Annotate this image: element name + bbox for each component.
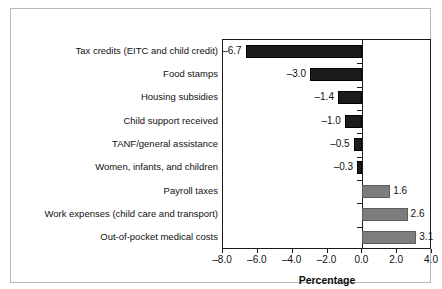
bar-row: –1.4 — [223, 87, 430, 109]
category-tick — [357, 133, 362, 134]
bar-value-label: –1.0 — [321, 113, 340, 128]
category-label: Housing subsidies — [23, 86, 218, 108]
category-label: Work expenses (child care and transport) — [23, 203, 218, 225]
category-label: TANF/general assistance — [23, 133, 218, 155]
category-tick — [357, 203, 362, 204]
category-label: Tax credits (EITC and child credit) — [23, 40, 218, 62]
bar-row: 2.6 — [223, 204, 430, 226]
bar-value-label: –6.7 — [222, 43, 241, 58]
bar-value-label: 2.6 — [411, 206, 425, 221]
x-axis-tick-label: –2.0 — [317, 254, 336, 265]
bar-row: –6.7 — [223, 41, 430, 63]
category-axis-labels: Tax credits (EITC and child credit)Food … — [25, 39, 220, 249]
category-tick — [357, 180, 362, 181]
category-label: Child support received — [23, 110, 218, 132]
x-axis-title: Percentage — [222, 274, 432, 286]
category-label: Food stamps — [23, 63, 218, 85]
bar-negative — [345, 115, 362, 128]
bar-value-label: –0.3 — [334, 159, 353, 174]
bar-negative — [246, 45, 363, 58]
bar-negative — [338, 91, 362, 104]
x-axis-tick-label: 4.0 — [424, 254, 438, 265]
category-label: Women, infants, and children — [23, 156, 218, 178]
bar-value-label: –3.0 — [287, 66, 306, 81]
category-tick — [357, 227, 362, 228]
x-axis-tick — [222, 249, 223, 253]
x-axis-tick — [257, 249, 258, 253]
x-axis-tick-label: –4.0 — [282, 254, 301, 265]
bar-positive — [362, 208, 407, 221]
x-axis-tick-label: –6.0 — [247, 254, 266, 265]
bar-value-label: 1.6 — [393, 183, 407, 198]
category-tick — [357, 87, 362, 88]
bar-row: –1.0 — [223, 111, 430, 133]
x-axis-tick — [327, 249, 328, 253]
bar-row: 3.1 — [223, 227, 430, 249]
bar-positive — [362, 231, 416, 244]
bar-row: –3.0 — [223, 64, 430, 86]
figure-screenshot: Tax credits (EITC and child credit)Food … — [0, 0, 442, 289]
x-axis-tick-label: 0.0 — [354, 254, 368, 265]
bar-value-label: 3.1 — [419, 229, 433, 244]
bar-value-label: –0.5 — [330, 136, 349, 151]
category-tick — [357, 63, 362, 64]
x-axis-tick — [292, 249, 293, 253]
bar-negative — [354, 138, 363, 151]
category-label: Payroll taxes — [23, 180, 218, 202]
bar-negative — [357, 161, 362, 174]
bar-value-label: –1.4 — [314, 89, 333, 104]
x-axis-tick — [396, 249, 397, 253]
bar-negative — [310, 68, 362, 81]
bar-row: 1.6 — [223, 181, 430, 203]
bar-row: –0.3 — [223, 157, 430, 179]
x-axis-tick — [431, 249, 432, 253]
figure-outer-frame: Tax credits (EITC and child credit)Food … — [10, 8, 431, 283]
x-axis-tick-label: –8.0 — [212, 254, 231, 265]
category-tick — [357, 110, 362, 111]
x-axis-tick — [361, 249, 362, 253]
category-label: Out-of-pocket medical costs — [23, 226, 218, 248]
x-axis-tick-label: 2.0 — [389, 254, 403, 265]
plot-area: –6.7–3.0–1.4–1.0–0.5–0.31.62.63.1 — [222, 39, 431, 249]
category-tick — [357, 157, 362, 158]
bar-row: –0.5 — [223, 134, 430, 156]
bar-positive — [362, 185, 390, 198]
